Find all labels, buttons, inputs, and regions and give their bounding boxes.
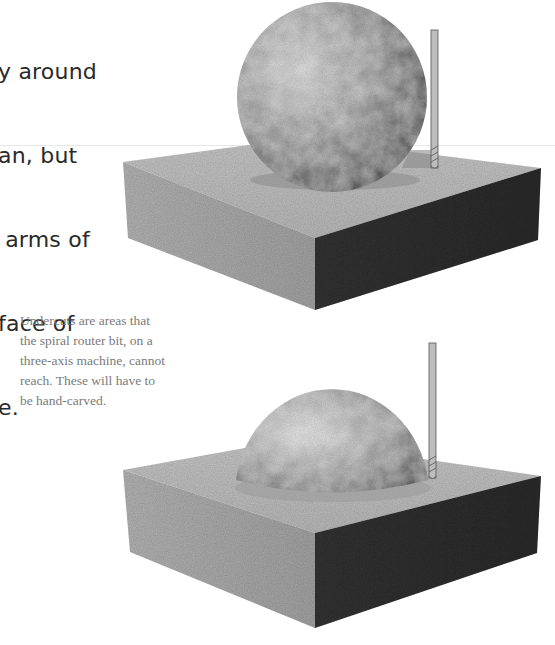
caption-line: be hand-carved.	[20, 391, 220, 411]
sphere	[237, 2, 427, 192]
caption-line: Undercuts are areas that	[20, 311, 220, 331]
sphere-dome	[236, 389, 428, 492]
caption-line: three-axis machine, cannot	[20, 351, 220, 371]
spiral-router-bit	[429, 343, 436, 479]
figure-full-sphere	[123, 2, 541, 310]
caption-line: the spiral router bit, on a	[20, 331, 220, 351]
spiral-router-bit	[431, 30, 438, 168]
figure-caption: Undercuts are areas that the spiral rout…	[20, 311, 220, 411]
caption-line: reach. These will have to	[20, 371, 220, 391]
